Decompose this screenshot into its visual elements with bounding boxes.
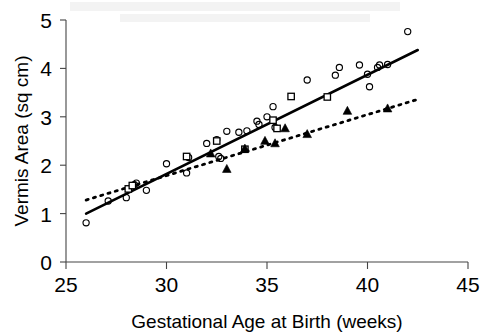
data-point-triangle — [281, 124, 290, 132]
x-axis-ticks — [66, 262, 468, 269]
x-tick-label-25: 25 — [54, 273, 77, 296]
y-axis-ticks — [60, 20, 66, 262]
data-point-circle — [184, 170, 190, 176]
y-tick-label-3: 3 — [40, 106, 52, 129]
data-point-triangle — [343, 106, 352, 114]
data-point-circle — [204, 140, 210, 146]
scatter-plot-figure: 5 4 3 2 1 0 25 30 35 40 45 Vermis Area (… — [0, 0, 491, 334]
data-point-layer — [83, 29, 411, 226]
y-tick-label-1: 1 — [40, 203, 52, 226]
data-point-circle — [163, 161, 169, 167]
y-tick-label-5: 5 — [40, 9, 52, 32]
data-point-square — [274, 125, 280, 131]
x-tick-label-45: 45 — [456, 273, 479, 296]
data-point-square — [288, 93, 294, 99]
data-point-square — [214, 138, 220, 144]
x-tick-label-35: 35 — [255, 273, 278, 296]
data-point-circle — [332, 72, 338, 78]
data-point-circle — [236, 129, 242, 135]
x-tick-label-40: 40 — [356, 273, 379, 296]
data-point-circle — [123, 195, 129, 201]
data-point-square — [183, 153, 189, 159]
data-point-circle — [405, 29, 411, 35]
data-point-circle — [143, 187, 149, 193]
data-point-square — [129, 182, 135, 188]
data-point-circle — [356, 62, 362, 68]
series-filled-triangles — [206, 104, 391, 172]
data-point-square — [324, 94, 330, 100]
y-tick-label-0: 0 — [40, 251, 52, 274]
data-point-circle — [270, 104, 276, 110]
data-point-circle — [83, 220, 89, 226]
data-point-circle — [304, 77, 310, 83]
x-axis-title: Gestational Age at Birth (weeks) — [131, 311, 402, 332]
scan-artifact — [70, 2, 400, 22]
x-tick-label-30: 30 — [155, 273, 178, 296]
data-point-circle — [224, 128, 230, 134]
chart-canvas: 5 4 3 2 1 0 25 30 35 40 45 Vermis Area (… — [0, 0, 491, 334]
data-point-circle — [336, 64, 342, 70]
y-tick-label-2: 2 — [40, 154, 52, 177]
y-axis-title: Vermis Area (sq cm) — [11, 55, 32, 226]
series-open-circles — [83, 29, 411, 226]
y-tick-label-4: 4 — [40, 57, 52, 80]
data-point-triangle — [223, 164, 232, 172]
data-point-circle — [264, 114, 270, 120]
data-point-square — [270, 117, 276, 123]
data-point-triangle — [261, 136, 270, 144]
data-point-circle — [366, 84, 372, 90]
